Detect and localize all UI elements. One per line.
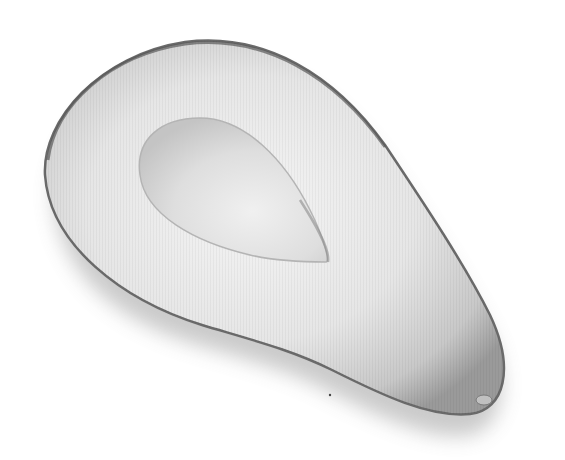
avocado-photo xyxy=(0,0,565,460)
stem-end xyxy=(476,395,492,405)
